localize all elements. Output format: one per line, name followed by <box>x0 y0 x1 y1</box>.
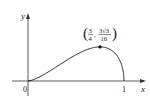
max-x-numerator: 3 <box>89 27 92 34</box>
max-y-numerator: 3√3 <box>99 27 109 34</box>
max-y-denominator: 16 <box>101 35 108 42</box>
close-paren: ) <box>112 25 117 42</box>
comma: , <box>94 31 96 38</box>
y-axis-label: y <box>20 11 25 21</box>
x-axis-label: x <box>140 84 145 94</box>
maximum-point-label: ( 3 4 , 3√3 16 ) <box>83 25 117 42</box>
y-axis-arrow-icon <box>26 13 30 19</box>
open-paren: ( <box>83 25 88 42</box>
maximum-point <box>98 45 101 48</box>
max-x-denominator: 4 <box>89 35 93 42</box>
x-tick-1-label: 1 <box>122 85 126 94</box>
x-axis-arrow-icon <box>140 79 146 83</box>
function-curve <box>28 47 124 81</box>
function-plot: y x 0 1 ( 3 4 , 3√3 16 ) <box>0 0 150 102</box>
origin-label: 0 <box>23 85 27 94</box>
